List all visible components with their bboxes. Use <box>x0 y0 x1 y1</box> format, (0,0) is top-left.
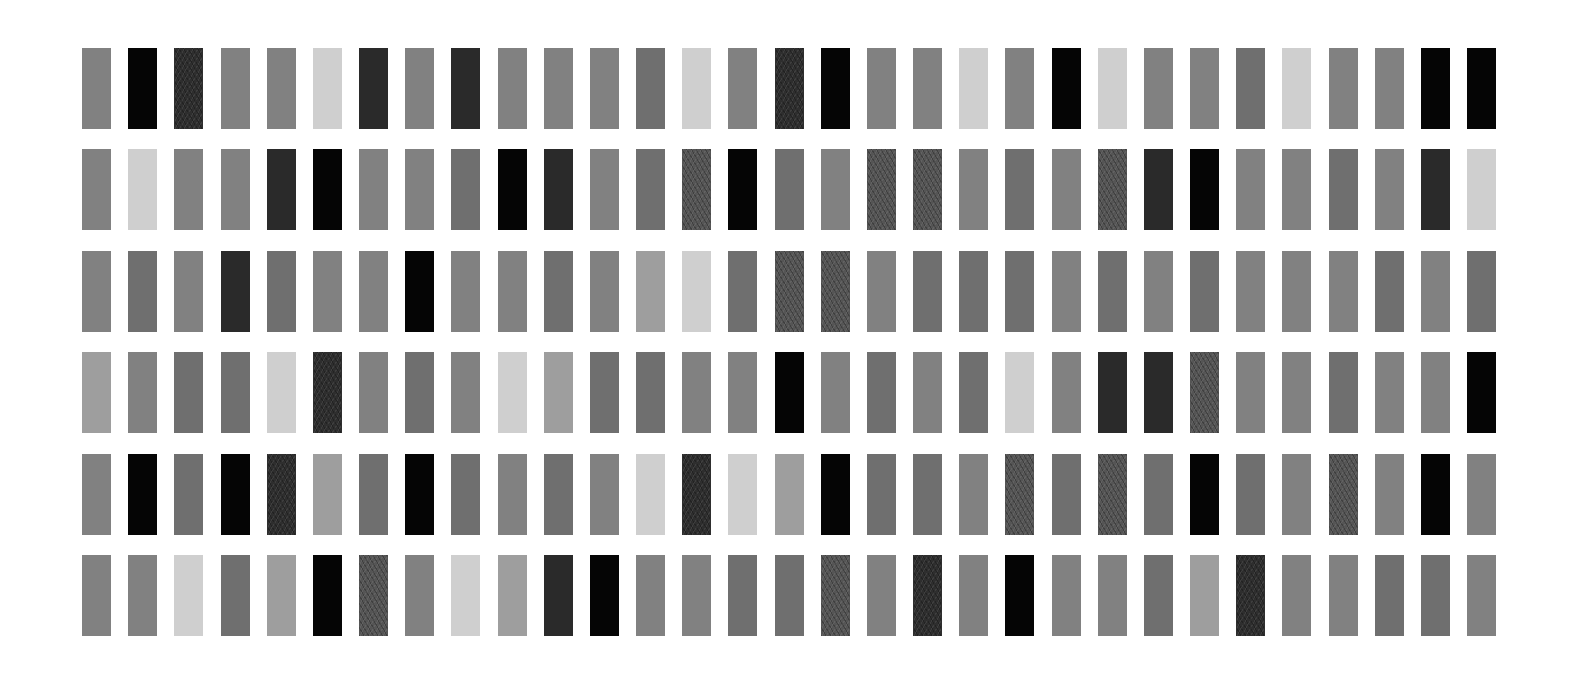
gray-swatch-tile <box>867 149 896 230</box>
gray-swatch-tile <box>1098 454 1127 535</box>
gray-swatch-tile <box>775 555 804 636</box>
gray-swatch-tile <box>913 454 942 535</box>
gray-swatch-tile <box>959 149 988 230</box>
gray-swatch-tile <box>1282 251 1311 332</box>
gray-swatch-tile <box>174 454 203 535</box>
gray-swatch-tile <box>1329 454 1358 535</box>
gray-swatch-tile <box>1144 352 1173 433</box>
gray-swatch-tile <box>913 555 942 636</box>
gray-swatch-tile <box>82 454 111 535</box>
gray-swatch-tile <box>1005 251 1034 332</box>
gray-swatch-tile <box>1098 352 1127 433</box>
gray-swatch-tile <box>1052 352 1081 433</box>
gray-swatch-tile <box>1375 251 1404 332</box>
gray-swatch-tile <box>775 48 804 129</box>
gray-swatch-tile <box>1375 149 1404 230</box>
gray-swatch-tile <box>1467 352 1496 433</box>
gray-swatch-tile <box>728 149 757 230</box>
gray-swatch-tile <box>821 48 850 129</box>
gray-swatch-tile <box>636 555 665 636</box>
gray-swatch-tile <box>1005 48 1034 129</box>
gray-swatch-tile <box>636 48 665 129</box>
gray-swatch-tile <box>1190 454 1219 535</box>
gray-swatch-tile <box>313 454 342 535</box>
gray-swatch-tile <box>1329 352 1358 433</box>
gray-swatch-tile <box>1329 251 1358 332</box>
gray-swatch-tile <box>451 149 480 230</box>
gray-swatch-tile <box>636 454 665 535</box>
gray-swatch-tile <box>313 352 342 433</box>
gray-swatch-tile <box>913 149 942 230</box>
gray-swatch-tile <box>128 454 157 535</box>
gray-swatch-tile <box>1236 48 1265 129</box>
gray-swatch-tile <box>1375 555 1404 636</box>
gray-swatch-tile <box>174 149 203 230</box>
gray-swatch-tile <box>1236 251 1265 332</box>
gray-swatch-tile <box>636 251 665 332</box>
gray-swatch-tile <box>1005 454 1034 535</box>
gray-swatch-tile <box>544 48 573 129</box>
gray-swatch-tile <box>913 48 942 129</box>
gray-swatch-tile <box>1375 352 1404 433</box>
gray-swatch-tile <box>1005 555 1034 636</box>
gray-swatch-tile <box>1098 48 1127 129</box>
gray-swatch-tile <box>1421 555 1450 636</box>
gray-swatch-tile <box>405 251 434 332</box>
gray-swatch-tile <box>313 555 342 636</box>
gray-swatch-tile <box>1052 454 1081 535</box>
gray-swatch-tile <box>682 251 711 332</box>
gray-swatch-tile <box>867 454 896 535</box>
gray-swatch-tile <box>82 149 111 230</box>
gray-swatch-tile <box>221 251 250 332</box>
gray-swatch-tile <box>359 352 388 433</box>
gray-swatch-tile <box>359 251 388 332</box>
gray-swatch-tile <box>590 251 619 332</box>
gray-swatch-tile <box>590 48 619 129</box>
gray-swatch-tile <box>1421 352 1450 433</box>
gray-swatch-tile <box>959 48 988 129</box>
gray-swatch-tile <box>267 149 296 230</box>
gray-swatch-tile <box>498 555 527 636</box>
gray-swatch-tile <box>267 251 296 332</box>
gray-swatch-tile <box>867 352 896 433</box>
gray-swatch-tile <box>775 149 804 230</box>
gray-swatch-tile <box>867 251 896 332</box>
gray-swatch-tile <box>405 352 434 433</box>
gray-swatch-tile <box>544 352 573 433</box>
gray-swatch-tile <box>128 555 157 636</box>
gray-swatch-tile <box>451 352 480 433</box>
gray-swatch-tile <box>1098 149 1127 230</box>
gray-swatch-tile <box>1467 48 1496 129</box>
gray-swatch-tile <box>174 352 203 433</box>
gray-swatch-tile <box>498 251 527 332</box>
gray-swatch-tile <box>313 48 342 129</box>
gray-swatch-tile <box>590 454 619 535</box>
gray-swatch-tile <box>1190 555 1219 636</box>
gray-swatch-tile <box>451 454 480 535</box>
gray-swatch-tile <box>405 555 434 636</box>
gray-swatch-tile <box>1282 352 1311 433</box>
gray-swatch-tile <box>451 555 480 636</box>
gray-swatch-tile <box>728 454 757 535</box>
gray-swatch-tile <box>682 149 711 230</box>
gray-swatch-tile <box>775 454 804 535</box>
gray-swatch-tile <box>1052 555 1081 636</box>
gray-swatch-tile <box>82 251 111 332</box>
gray-swatch-tile <box>1236 555 1265 636</box>
gray-swatch-tile <box>682 555 711 636</box>
gray-swatch-tile <box>1329 555 1358 636</box>
gray-swatch-tile <box>313 251 342 332</box>
gray-swatch-tile <box>82 555 111 636</box>
gray-swatch-tile <box>267 555 296 636</box>
gray-swatch-tile <box>1236 352 1265 433</box>
gray-swatch-tile <box>359 454 388 535</box>
gray-swatch-tile <box>1467 555 1496 636</box>
gray-swatch-tile <box>451 48 480 129</box>
gray-swatch-tile <box>498 454 527 535</box>
gray-swatch-tile <box>1282 454 1311 535</box>
gray-swatch-tile <box>1329 48 1358 129</box>
gray-swatch-tile <box>821 149 850 230</box>
gray-swatch-tile <box>682 48 711 129</box>
gray-swatch-tile <box>498 149 527 230</box>
gray-swatch-tile <box>728 48 757 129</box>
